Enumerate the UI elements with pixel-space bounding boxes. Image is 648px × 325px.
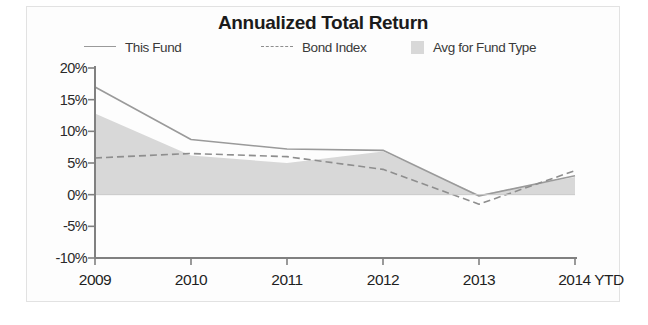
y-axis-tick-label: -5% [29,218,87,234]
x-axis-tick-label: 2012 [367,271,399,289]
x-axis-tick-label: 2009 [79,271,111,289]
chart-page: Annualized Total Return This Fund Bond I… [0,0,648,325]
y-axis-tick-label: 5% [29,155,87,171]
y-axis-tick-label: -10% [29,250,87,266]
x-axis-tick-label: 2014 YTD [558,271,624,289]
y-axis-tick-label: 10% [29,123,87,139]
y-axis-tick-label: 20% [29,60,87,76]
plot-area-wrapper: 20%15%10%5%0%-5%-10% 2009201020112012201… [0,0,648,325]
x-axis-tick-label: 2011 [271,271,302,289]
y-axis-tick-label: 0% [29,187,87,203]
x-axis-tick-label: 2010 [175,271,207,289]
y-axis-tick-label: 15% [29,92,87,108]
x-axis-tick-label: 2013 [463,271,495,289]
